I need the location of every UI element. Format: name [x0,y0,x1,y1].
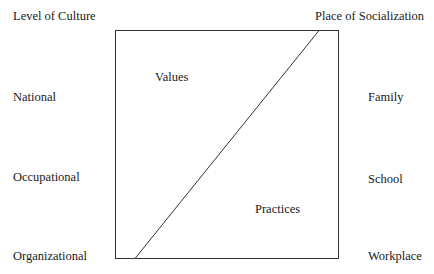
level-national: National [13,90,56,104]
values-label: Values [155,70,188,84]
practices-label: Practices [255,202,300,216]
place-workplace: Workplace [368,249,422,263]
place-of-socialization-header: Place of Socialization [315,9,424,23]
level-of-culture-header: Level of Culture [13,9,96,23]
diagonal-divider [135,31,319,259]
level-organizational: Organizational [13,249,87,263]
place-school: School [368,172,403,186]
place-family: Family [368,90,403,104]
level-occupational: Occupational [13,170,80,184]
values-practices-diagram [0,0,434,274]
